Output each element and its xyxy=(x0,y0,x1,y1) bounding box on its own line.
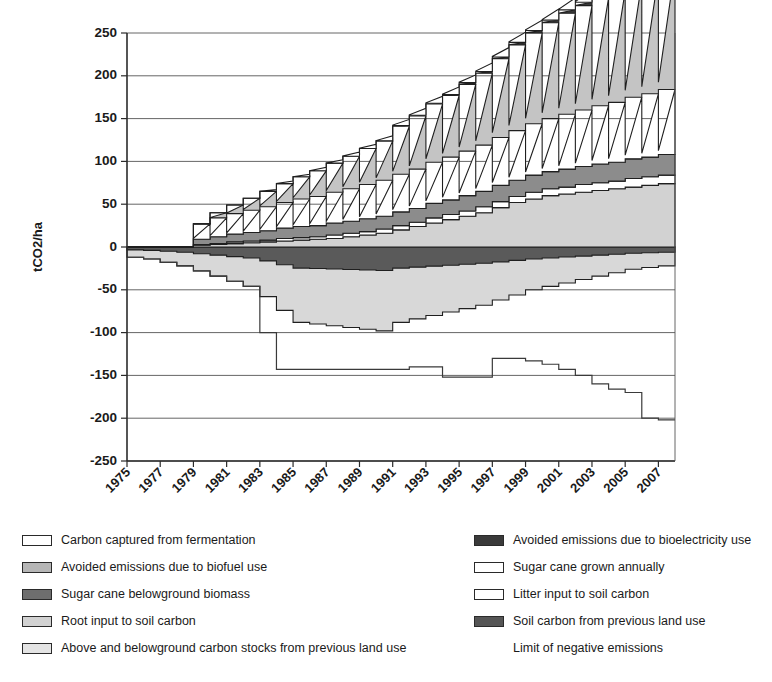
xtick-label-1987: 1987 xyxy=(301,465,332,496)
xtick-label-1997: 1997 xyxy=(467,465,498,496)
legend-item-label: Soil carbon from previous land use xyxy=(513,614,705,628)
legend-item: Avoided emissions due to bioelectricity … xyxy=(474,528,772,552)
xtick-label-1977: 1977 xyxy=(135,465,166,496)
legend-item: Above and belowground carbon stocks from… xyxy=(22,636,472,660)
legend-column-right: Avoided emissions due to bioelectricity … xyxy=(474,528,772,663)
xtick-label-2001: 2001 xyxy=(534,465,565,496)
y-axis-title: tCO2/ha xyxy=(30,221,45,272)
xtick-label-2005: 2005 xyxy=(600,465,631,496)
legend-swatch-icon xyxy=(474,535,504,546)
ytick-label--150: -150 xyxy=(90,367,117,382)
legend-item-label: Avoided emissions due to bioelectricity … xyxy=(513,533,751,547)
ytick-label-100: 100 xyxy=(94,153,117,168)
xtick-label-1979: 1979 xyxy=(168,465,199,496)
ytick-label-250: 250 xyxy=(94,25,117,40)
legend-item-label: Sugar cane grown annually xyxy=(513,560,665,574)
legend-item: Soil carbon from previous land use xyxy=(474,609,772,633)
figure-container: 250200150100500-50-100-150-200-250 19751… xyxy=(0,0,772,682)
xtick-label-1981: 1981 xyxy=(202,465,233,496)
legend-item: Carbon captured from fermentation xyxy=(22,528,472,552)
area-bands xyxy=(127,0,675,331)
legend-item: Root input to soil carbon xyxy=(22,609,472,633)
ytick-label-0: 0 xyxy=(109,239,117,254)
xtick-label-1993: 1993 xyxy=(401,465,432,496)
ytick-label--200: -200 xyxy=(90,410,117,425)
legend-item-label: Sugar cane belowground biomass xyxy=(61,587,250,601)
legend-swatch-icon xyxy=(474,616,504,627)
legend-swatch-icon xyxy=(22,562,52,573)
xtick-label-2007: 2007 xyxy=(633,465,664,496)
ytick-label--100: -100 xyxy=(90,324,117,339)
legend-swatch-icon xyxy=(474,562,504,573)
y-axis-tick-labels: 250200150100500-50-100-150-200-250 xyxy=(90,25,127,468)
xtick-label-1983: 1983 xyxy=(235,465,266,496)
xtick-label-1999: 1999 xyxy=(501,465,532,496)
legend-item-label: Carbon captured from fermentation xyxy=(61,533,256,547)
legend-item-label: Root input to soil carbon xyxy=(61,614,196,628)
ytick-label-150: 150 xyxy=(94,110,117,125)
stacked-area-chart: 250200150100500-50-100-150-200-250 19751… xyxy=(0,0,772,520)
ytick-label-50: 50 xyxy=(102,196,117,211)
y-axis-title-text: tCO2/ha xyxy=(30,221,45,272)
xtick-label-2003: 2003 xyxy=(567,465,598,496)
xtick-label-1995: 1995 xyxy=(434,465,465,496)
legend-swatch-icon xyxy=(22,589,52,600)
x-axis-tick-labels: 1975197719791981198319851987198919911993… xyxy=(102,461,664,496)
legend-swatch-icon xyxy=(22,643,52,654)
chart-area: 250200150100500-50-100-150-200-250 19751… xyxy=(0,0,772,520)
legend-column-left: Carbon captured from fermentationAvoided… xyxy=(22,528,472,663)
legend-item-label: Litter input to soil carbon xyxy=(513,587,649,601)
legend-item: Limit of negative emissions xyxy=(474,636,772,660)
legend-item-label: Above and belowground carbon stocks from… xyxy=(61,641,406,655)
legend-item: Litter input to soil carbon xyxy=(474,582,772,606)
legend-swatch-icon xyxy=(474,589,504,600)
legend-item: Sugar cane grown annually xyxy=(474,555,772,579)
legend-item: Sugar cane belowground biomass xyxy=(22,582,472,606)
ytick-label--250: -250 xyxy=(90,453,117,468)
legend-swatch-icon xyxy=(22,535,52,546)
figure-caption xyxy=(0,668,772,682)
legend-swatch-placeholder xyxy=(474,643,504,654)
legend-swatch-icon xyxy=(22,616,52,627)
legend-item-label: Avoided emissions due to biofuel use xyxy=(61,560,267,574)
xtick-label-1989: 1989 xyxy=(335,465,366,496)
legend-item: Avoided emissions due to biofuel use xyxy=(22,555,472,579)
xtick-label-1985: 1985 xyxy=(268,465,299,496)
ytick-label-200: 200 xyxy=(94,67,117,82)
ytick-label--50: -50 xyxy=(97,281,117,296)
xtick-label-1975: 1975 xyxy=(102,465,133,496)
legend-item-label: Limit of negative emissions xyxy=(513,641,663,655)
xtick-label-1991: 1991 xyxy=(368,465,399,496)
